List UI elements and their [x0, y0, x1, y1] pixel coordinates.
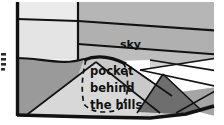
- landscape-diagram-figure: sky pocket behind the hills: [0, 0, 224, 125]
- label-pocket-line-1: pocket: [90, 64, 134, 78]
- label-sky: sky: [120, 38, 141, 51]
- diagram-canvas: sky pocket behind the hills: [0, 0, 224, 125]
- region-upper-left-pale-panel: [17, 2, 78, 21]
- label-pocket-line-3: the hills: [90, 98, 143, 112]
- region-mid-left-pale-panel: [17, 19, 78, 60]
- label-pocket-line-2: behind: [90, 81, 135, 95]
